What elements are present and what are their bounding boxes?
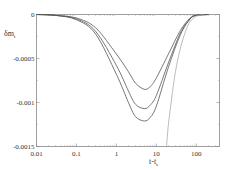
y-tick-label: -0.0005 xyxy=(13,55,35,63)
x-tick-label: 1 xyxy=(115,150,119,158)
series-group xyxy=(37,15,209,147)
y-tick-label: 0 xyxy=(31,11,35,19)
y-axis-label: δmt xyxy=(4,29,16,39)
series-line xyxy=(37,15,209,109)
plot-frame xyxy=(37,15,220,147)
x-axis-label: t-ts xyxy=(149,157,158,167)
y-tick-label: -0.001 xyxy=(16,99,35,107)
line-chart: 0.010.1110100 0-0.0005-0.001-0.0015 δmt … xyxy=(0,0,232,170)
series-line xyxy=(37,15,209,121)
y-tick-label: -0.0015 xyxy=(13,143,35,151)
x-tick-label: 100 xyxy=(191,150,202,158)
y-axis-ticks: 0-0.0005-0.001-0.0015 xyxy=(13,11,220,151)
series-line xyxy=(167,15,204,147)
x-axis-ticks: 0.010.1110100 xyxy=(30,15,215,158)
x-tick-label: 0.1 xyxy=(72,150,81,158)
